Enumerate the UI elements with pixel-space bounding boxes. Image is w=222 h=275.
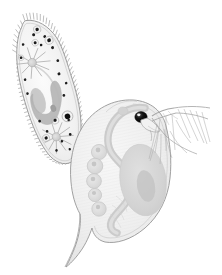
egg: [88, 188, 101, 201]
ocellus: [118, 107, 128, 115]
illustration-canvas: Two freshwater microorganisms drawn in g…: [0, 0, 222, 275]
microorganisms-illustration: [0, 0, 222, 275]
egg: [92, 202, 106, 216]
eye-highlight-icon: [137, 113, 140, 116]
